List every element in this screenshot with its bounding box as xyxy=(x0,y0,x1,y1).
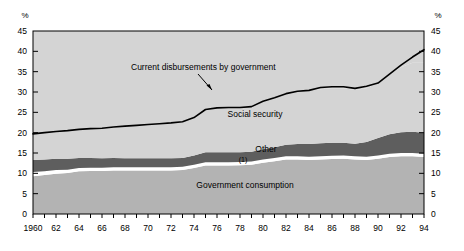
y-tick-label-right: 30 xyxy=(431,87,441,97)
x-tick-label: 74 xyxy=(189,223,199,233)
x-tick-label: 66 xyxy=(97,223,107,233)
y-tick-label-right: 25 xyxy=(431,107,441,117)
y-tick-label-left: 35 xyxy=(18,67,28,77)
current-disbursements-label: Current disbursements by government xyxy=(131,62,276,72)
y-tick-label-left: 15 xyxy=(18,148,28,158)
area-chart: % % 051015202530354045 05101520253035404… xyxy=(0,0,464,251)
y-tick-label-right: 0 xyxy=(431,209,436,219)
footnote-marker-label: (1) xyxy=(239,156,248,164)
x-tick-label: 90 xyxy=(373,223,383,233)
x-tick-label: 72 xyxy=(166,223,176,233)
x-tick-label: 64 xyxy=(74,223,84,233)
x-tick-label: 86 xyxy=(327,223,337,233)
x-tick-label: 70 xyxy=(143,223,153,233)
x-tick-label: 88 xyxy=(350,223,360,233)
y-tick-label-left: 45 xyxy=(18,26,28,36)
y-tick-label-right: 40 xyxy=(431,46,441,56)
other-label: Other xyxy=(255,144,276,154)
y-tick-label-right: 20 xyxy=(431,128,441,138)
chart-root: % % 051015202530354045 05101520253035404… xyxy=(0,0,464,251)
x-tick-label: 84 xyxy=(304,223,314,233)
y-tick-label-right: 45 xyxy=(431,26,441,36)
x-tick-label: 80 xyxy=(258,223,268,233)
y-tick-label-left: 30 xyxy=(18,87,28,97)
x-tick-label: 68 xyxy=(120,223,130,233)
social-security-label: Social security xyxy=(228,109,284,119)
y-tick-label-right: 10 xyxy=(431,168,441,178)
y-tick-label-right: 5 xyxy=(431,189,436,199)
y-tick-label-left: 20 xyxy=(18,128,28,138)
y-tick-label-right: 15 xyxy=(431,148,441,158)
y-tick-label-left: 10 xyxy=(18,168,28,178)
x-tick-label: 92 xyxy=(396,223,406,233)
y-tick-label-left: 5 xyxy=(22,189,27,199)
x-tick-label: 82 xyxy=(281,223,291,233)
y-tick-label-right: 35 xyxy=(431,67,441,77)
x-tick-label: 62 xyxy=(51,223,61,233)
y-tick-label-left: 25 xyxy=(18,107,28,117)
y-tick-label-left: 0 xyxy=(22,209,27,219)
right-axis-unit: % xyxy=(434,11,441,20)
x-tick-label: 78 xyxy=(235,223,245,233)
government-consumption-label: Government consumption xyxy=(196,180,294,190)
y-tick-label-left: 40 xyxy=(18,46,28,56)
left-axis-unit: % xyxy=(21,11,28,20)
x-tick-label: 94 xyxy=(419,223,429,233)
x-tick-label: 1960 xyxy=(24,223,43,233)
x-tick-label: 76 xyxy=(212,223,222,233)
